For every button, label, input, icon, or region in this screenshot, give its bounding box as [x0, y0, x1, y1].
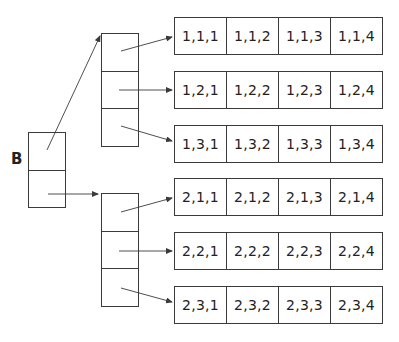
arrow-1-3: [121, 126, 172, 141]
pointer-arrows: [0, 0, 399, 342]
arrow-1-1: [121, 37, 172, 51]
pointer-array-diagram: B 1,1,1 1,1,2 1,1,3 1,1,4 1,2,1 1,2,2 1,…: [0, 0, 399, 342]
arrow-root-1: [47, 36, 100, 150]
arrow-2-1: [121, 198, 172, 212]
arrow-2-3: [121, 288, 172, 302]
